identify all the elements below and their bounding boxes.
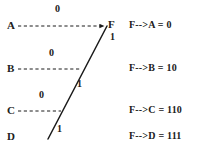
code-entry-b: F-->B = 10 [129, 63, 177, 73]
node-label-f: F [108, 19, 115, 30]
edge-label-zero-b: 0 [49, 48, 54, 58]
code-entry-a: F-->A = 0 [129, 20, 172, 30]
code-list: F-->A = 0 F-->B = 10 F-->C = 110 F-->D =… [129, 0, 217, 160]
node-label-d: D [7, 131, 15, 142]
node-label-a: A [7, 20, 15, 31]
edge-label-one-b: 1 [77, 79, 82, 89]
edge-label-zero-c: 0 [39, 90, 44, 100]
edge-label-one-d: 1 [57, 124, 62, 134]
edge-label-zero-a: 0 [55, 4, 60, 14]
diagram-root: A B C D F 0 1 0 1 0 1 F-->A = 0 F-->B = … [0, 0, 217, 160]
code-entry-d: F-->D = 111 [129, 131, 181, 141]
code-entry-c: F-->C = 110 [129, 105, 182, 115]
node-label-b: B [7, 63, 14, 74]
node-label-c: C [7, 105, 15, 116]
edge-label-one-f: 1 [110, 32, 115, 42]
